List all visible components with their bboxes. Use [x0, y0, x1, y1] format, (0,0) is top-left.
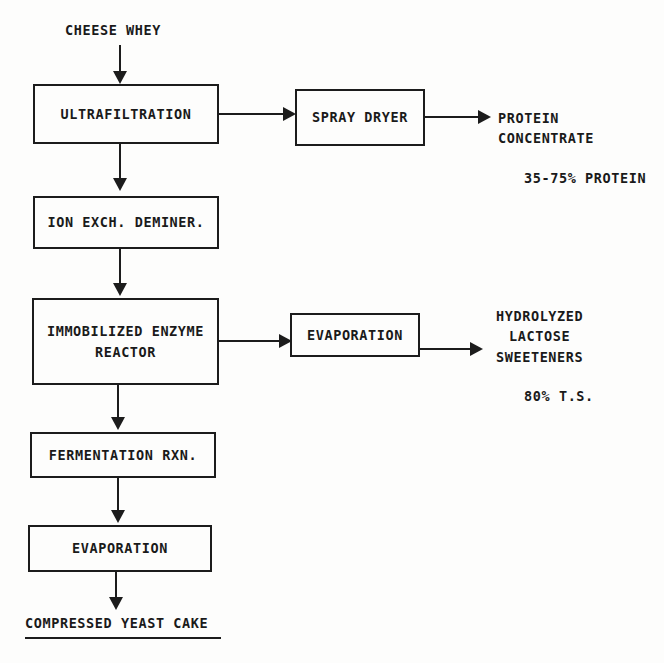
arrowhead-ion-exchange-to-enzyme-reactor [113, 283, 127, 296]
arrowhead-fermentation-to-evaporation-bottom [111, 510, 125, 523]
process-box-enzyme-reactor-line-1: IMMOBILIZED ENZYME [47, 321, 204, 342]
arrowhead-evaporation-to-lactose-sweeteners [470, 342, 483, 356]
output-spec-lactose-sweeteners: 80% T.S. [524, 386, 594, 406]
process-box-fermentation[interactable]: FERMENTATION RXN. [30, 432, 216, 478]
output-lactose-sweeteners-line-3: SWEETENERS [496, 347, 583, 367]
process-box-evaporation-bottom-label: EVAPORATION [72, 538, 168, 559]
arrowhead-ultrafiltration-to-ion-exchange [113, 178, 127, 191]
process-box-evaporation-right[interactable]: EVAPORATION [290, 313, 420, 357]
output-label-protein-concentrate: PROTEIN CONCENTRATE [498, 108, 594, 149]
underline-compressed-yeast-cake [25, 637, 221, 639]
arrowhead-spray-dryer-to-protein-concentrate [478, 110, 491, 124]
output-lactose-sweeteners-line-1: HYDROLYZED [496, 306, 583, 326]
arrowhead-whey-to-ultrafiltration [113, 71, 127, 84]
input-label-cheese-whey: CHEESE WHEY [65, 20, 161, 40]
process-box-fermentation-label: FERMENTATION RXN. [49, 445, 197, 466]
output-label-compressed-yeast-cake: COMPRESSED YEAST CAKE [25, 613, 208, 633]
process-box-spray-dryer-label: SPRAY DRYER [312, 107, 408, 128]
process-box-ion-exchange-label: ION EXCH. DEMINER. [47, 212, 204, 233]
output-lactose-sweeteners-line-2: LACTOSE [496, 326, 583, 346]
connector-enzyme-reactor-to-fermentation [117, 385, 119, 419]
connector-ultrafiltration-to-ion-exchange [119, 144, 121, 180]
process-box-spray-dryer[interactable]: SPRAY DRYER [295, 89, 425, 146]
arrowhead-evaporation-to-yeast-cake [109, 597, 123, 610]
process-box-enzyme-reactor-line-2: REACTOR [95, 342, 156, 363]
process-box-evaporation-right-label: EVAPORATION [307, 325, 403, 346]
output-label-lactose-sweeteners: HYDROLYZED LACTOSE SWEETENERS [496, 306, 583, 367]
connector-spray-dryer-to-protein-concentrate [425, 116, 483, 118]
connector-ultrafiltration-to-spray-dryer [219, 113, 289, 115]
connector-ion-exchange-to-enzyme-reactor [119, 249, 121, 285]
process-box-evaporation-bottom[interactable]: EVAPORATION [28, 525, 212, 572]
output-protein-concentrate-line-2: CONCENTRATE [498, 128, 594, 148]
output-protein-concentrate-line-1: PROTEIN [498, 108, 594, 128]
connector-enzyme-reactor-to-evaporation [219, 340, 284, 342]
process-box-ultrafiltration-label: ULTRAFILTRATION [61, 104, 192, 125]
process-box-enzyme-reactor[interactable]: IMMOBILIZED ENZYME REACTOR [32, 298, 219, 385]
connector-evaporation-to-lactose-sweeteners [420, 348, 475, 350]
arrowhead-enzyme-reactor-to-fermentation [111, 417, 125, 430]
output-spec-protein-concentrate: 35-75% PROTEIN [524, 168, 646, 188]
flowchart-diagram: CHEESE WHEY ULTRAFILTRATION SPRAY DRYER … [0, 0, 664, 663]
connector-evaporation-to-yeast-cake [115, 572, 117, 600]
connector-fermentation-to-evaporation-bottom [117, 478, 119, 512]
process-box-ultrafiltration[interactable]: ULTRAFILTRATION [33, 84, 219, 144]
process-box-ion-exchange[interactable]: ION EXCH. DEMINER. [33, 196, 219, 249]
